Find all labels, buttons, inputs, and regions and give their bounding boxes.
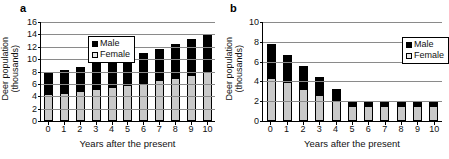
stacked-bar	[380, 22, 389, 121]
y-tick-mark	[38, 47, 41, 48]
panel-a-y-axis-title-line2: (thousands)	[10, 45, 20, 93]
bar-segment-female	[108, 87, 117, 121]
gridline	[41, 109, 215, 110]
bar-segment-female	[76, 91, 85, 121]
y-tick-mark	[38, 96, 41, 97]
x-tick-label: 10	[429, 122, 438, 134]
x-tick-label: 0	[266, 122, 275, 134]
bar-segment-female	[397, 106, 406, 121]
bar-segment-male	[60, 70, 69, 92]
bar-segment-male	[171, 44, 180, 77]
bar-segment-female	[123, 85, 132, 122]
panel-a-y-axis-title-line1: Deer population	[0, 37, 10, 101]
panel-b-legend-label-female: Female	[414, 50, 444, 61]
bar-segment-male	[299, 66, 308, 90]
y-tick-label: 8	[254, 38, 259, 47]
panel-a-x-tick-labels: 012345678910	[40, 122, 215, 136]
panel-b: b Deer population (thousands) 0246810 01…	[224, 0, 448, 159]
panel-b-legend-item-male: Male	[406, 39, 444, 50]
x-tick-label: 7	[155, 122, 164, 134]
x-tick-label: 4	[107, 122, 116, 134]
gridline	[41, 22, 215, 23]
y-tick-mark	[260, 22, 263, 23]
x-tick-label: 5	[123, 122, 132, 134]
y-tick-label: 0	[32, 117, 37, 126]
panel-a-legend-label-female: Female	[100, 49, 130, 60]
y-tick-mark	[38, 59, 41, 60]
bar-segment-male	[92, 63, 101, 88]
gridline	[263, 22, 442, 23]
y-tick-label: 0	[254, 117, 259, 126]
bar-segment-female	[429, 106, 438, 121]
bar-segment-female	[413, 106, 422, 121]
bar-segment-male	[155, 49, 164, 81]
y-tick-label: 2	[254, 97, 259, 106]
male-swatch-icon	[92, 41, 98, 47]
panel-a-y-axis-title: Deer population (thousands)	[0, 14, 21, 124]
panel-b-x-axis-title: Years after the present	[262, 138, 442, 149]
y-tick-mark	[260, 101, 263, 102]
bar-segment-female	[332, 101, 341, 121]
y-tick-mark	[38, 72, 41, 73]
x-tick-label: 9	[413, 122, 422, 134]
y-tick-mark	[260, 81, 263, 82]
y-tick-label: 6	[254, 58, 259, 67]
bar-segment-female	[348, 106, 357, 121]
stacked-bar	[364, 22, 373, 121]
gridline	[263, 81, 442, 82]
bar-segment-female	[187, 75, 196, 121]
y-tick-label: 8	[32, 68, 37, 77]
panel-a-legend-item-male: Male	[92, 38, 130, 49]
x-tick-label: 6	[364, 122, 373, 134]
x-tick-label: 1	[282, 122, 291, 134]
panel-a: a Deer population (thousands) 0246810121…	[0, 0, 224, 159]
stacked-bar	[348, 22, 357, 121]
x-tick-label: 8	[397, 122, 406, 134]
bar-segment-female	[139, 83, 148, 121]
bar-segment-male	[315, 77, 324, 95]
panel-b-y-axis-title: Deer population (thousands)	[223, 14, 245, 124]
y-tick-label: 10	[249, 18, 259, 27]
x-tick-label: 10	[203, 122, 212, 134]
x-tick-label: 6	[139, 122, 148, 134]
panel-b-plot-wrap: 0246810 012345678910 Years after the pre…	[262, 22, 442, 122]
stacked-bar	[315, 22, 324, 121]
panel-b-legend-item-female: Female	[406, 50, 444, 61]
x-tick-label: 3	[91, 122, 100, 134]
y-tick-label: 2	[32, 105, 37, 114]
panel-a-legend-item-female: Female	[92, 49, 130, 60]
panel-b-y-axis-title-line1: Deer population	[224, 37, 234, 101]
bar-segment-female	[364, 106, 373, 121]
male-swatch-icon	[406, 42, 412, 48]
x-tick-label: 2	[75, 122, 84, 134]
y-tick-label: 10	[27, 55, 37, 64]
y-tick-mark	[38, 34, 41, 35]
gridline	[41, 72, 215, 73]
bar-segment-male	[76, 67, 85, 91]
female-swatch-icon	[406, 53, 412, 59]
bar-segment-male	[187, 39, 196, 74]
female-swatch-icon	[92, 52, 98, 58]
x-tick-label: 3	[315, 122, 324, 134]
gridline	[41, 96, 215, 97]
x-tick-label: 7	[380, 122, 389, 134]
bar-segment-male	[203, 34, 212, 72]
panel-a-legend: Male Female	[88, 36, 135, 63]
y-tick-mark	[38, 22, 41, 23]
panel-a-plot-wrap: 0246810121416 012345678910 Years after t…	[40, 22, 215, 122]
bar-segment-male	[139, 53, 148, 83]
panel-a-legend-label-male: Male	[100, 38, 120, 49]
bar-segment-female	[92, 89, 101, 121]
bar-segment-female	[155, 80, 164, 121]
x-tick-label: 9	[187, 122, 196, 134]
stacked-bar	[267, 22, 276, 121]
gridline	[263, 101, 442, 102]
x-tick-label: 0	[43, 122, 52, 134]
bar-segment-female	[267, 78, 276, 121]
gridline	[41, 84, 215, 85]
bar-segment-male	[332, 89, 341, 101]
y-tick-label: 4	[32, 92, 37, 101]
panel-a-x-axis-title: Years after the present	[40, 138, 215, 149]
panel-b-y-axis-title-line2: (thousands)	[234, 45, 244, 93]
